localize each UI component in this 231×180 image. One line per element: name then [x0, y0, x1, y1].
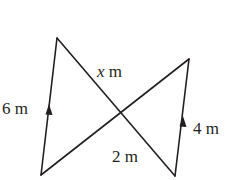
label-bottom-segment: 2 m	[112, 147, 138, 166]
right-side	[175, 59, 189, 176]
label-left-side: 6 m	[2, 99, 28, 118]
similar-triangles-diagram: 6 m 4 m x m 2 m	[0, 0, 231, 180]
label-x: x m	[96, 62, 122, 81]
parallel-arrow-left-icon	[46, 104, 53, 115]
label-right-side: 4 m	[193, 119, 219, 138]
parallel-arrow-right-icon	[180, 116, 187, 127]
